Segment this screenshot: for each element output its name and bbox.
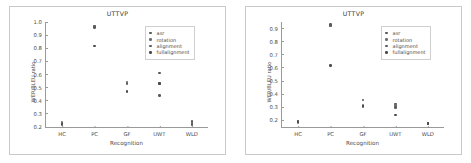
y-axis-tick: 0.7 — [34, 58, 46, 64]
x-axis-tick: WLD — [422, 131, 434, 137]
chart-panel-right: UTTVP WER/BLEU ratio 0.20.30.40.50.60.70… — [236, 0, 471, 163]
x-axis-tick: HC — [294, 131, 302, 137]
data-point — [329, 23, 332, 26]
y-axis-tick: 0.7 — [270, 52, 282, 58]
legend-marker-icon — [149, 51, 152, 54]
legend-label: alignment — [157, 43, 182, 49]
legend-item: fullalignment — [385, 49, 426, 55]
y-axis-tick: 0.3 — [270, 104, 282, 110]
x-axis-tick: GF — [359, 131, 366, 137]
data-point — [394, 114, 397, 117]
legend-label: rotation — [157, 37, 177, 43]
y-axis-tick: 0.6 — [270, 65, 282, 71]
data-point — [158, 72, 161, 75]
data-point — [93, 26, 96, 29]
data-point — [158, 82, 161, 85]
x-axis-tick: UWT — [389, 131, 401, 137]
data-point — [394, 106, 397, 109]
chart-title: UTTVP — [236, 10, 471, 17]
legend-marker-icon — [385, 32, 388, 35]
data-point — [126, 83, 129, 86]
data-point — [126, 90, 129, 93]
y-axis-tick: 0.8 — [34, 45, 46, 51]
y-axis-tick: 0.9 — [34, 32, 46, 38]
data-point — [93, 45, 96, 48]
data-point — [158, 94, 161, 97]
legend: asrrotationalignmentfullalignment — [145, 26, 195, 60]
legend-marker-icon — [385, 38, 388, 41]
x-axis-tick: GF — [123, 131, 130, 137]
legend-marker-icon — [149, 45, 152, 48]
x-axis-label: Recognition — [45, 140, 208, 146]
y-axis-tick: 1.0 — [34, 19, 46, 25]
y-axis-label: WER/BLEU ratio — [30, 61, 36, 102]
data-point — [297, 121, 300, 124]
legend-label: fullalignment — [393, 49, 426, 55]
y-axis-tick: 0.4 — [34, 98, 46, 104]
x-axis-tick: WLD — [186, 131, 198, 137]
legend-label: fullalignment — [157, 49, 190, 55]
data-point — [427, 122, 430, 125]
y-axis-tick: 0.2 — [270, 117, 282, 123]
x-axis-tick: UWT — [153, 131, 165, 137]
y-axis-tick: 0.3 — [34, 111, 46, 117]
legend-label: rotation — [393, 37, 413, 43]
legend: asrrotationalignmentfullalignment — [381, 26, 431, 60]
legend-label: asr — [157, 30, 165, 36]
y-axis-tick: 0.2 — [34, 124, 46, 130]
y-axis-tick: 0.5 — [270, 78, 282, 84]
legend-marker-icon — [149, 38, 152, 41]
legend-marker-icon — [385, 51, 388, 54]
data-point — [362, 99, 365, 102]
legend-label: asr — [393, 30, 401, 36]
chart-panel-left: UTTVP WER/BLEU ratio 0.20.30.40.50.60.70… — [0, 0, 235, 163]
x-axis-tick: HC — [58, 131, 66, 137]
legend-marker-icon — [149, 32, 152, 35]
y-axis-tick: 0.9 — [270, 26, 282, 32]
data-point — [329, 64, 332, 67]
y-axis-tick: 0.8 — [270, 39, 282, 45]
x-axis-label: Recognition — [281, 140, 444, 146]
legend-marker-icon — [385, 45, 388, 48]
figure-canvas: UTTVP WER/BLEU ratio 0.20.30.40.50.60.70… — [0, 0, 471, 163]
y-axis-tick: 0.5 — [34, 85, 46, 91]
x-axis-tick: PC — [91, 131, 98, 137]
legend-label: alignment — [393, 43, 418, 49]
chart-title: UTTVP — [0, 10, 235, 17]
legend-item: fullalignment — [149, 49, 190, 55]
x-axis-tick: PC — [327, 131, 334, 137]
y-axis-tick: 0.6 — [34, 72, 46, 78]
y-axis-tick: 0.4 — [270, 91, 282, 97]
